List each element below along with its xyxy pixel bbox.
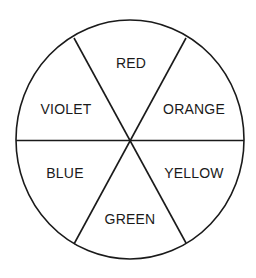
segment-label-orange: ORANGE bbox=[163, 101, 225, 117]
segment-label-yellow: YELLOW bbox=[164, 165, 224, 181]
segment-label-green: GREEN bbox=[105, 211, 156, 227]
segment-label-violet: VIOLET bbox=[41, 101, 92, 117]
segment-label-blue: BLUE bbox=[46, 165, 83, 181]
segment-label-red: RED bbox=[116, 55, 146, 71]
color-wheel-diagram: RED ORANGE YELLOW GREEN BLUE VIOLET bbox=[0, 0, 256, 278]
